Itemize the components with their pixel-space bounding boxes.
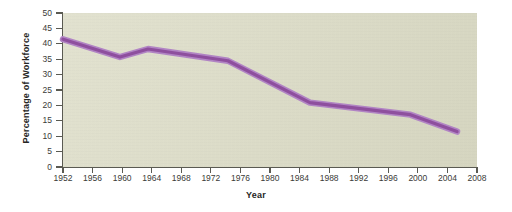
y-axis-title: Percentage of Workforce bbox=[21, 13, 31, 163]
series-line-highlight bbox=[63, 39, 457, 131]
x-axis-title: Year bbox=[0, 190, 512, 200]
series-line bbox=[63, 39, 457, 131]
data-series-layer bbox=[0, 0, 512, 212]
line-chart-figure: 05101520253035404550 1952195619601964196… bbox=[0, 0, 512, 212]
